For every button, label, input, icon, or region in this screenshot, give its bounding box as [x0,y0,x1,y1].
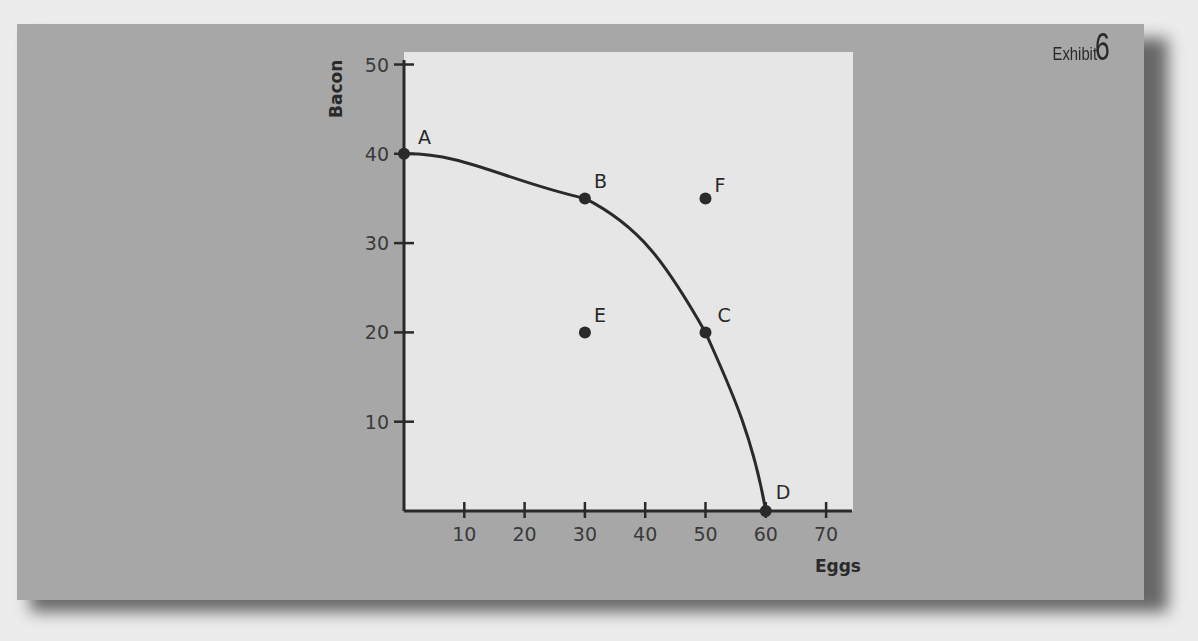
x-axis-title: Eggs [815,556,861,576]
y-tick-label: 50 [365,54,389,76]
point-label-b: B [594,170,607,192]
point-label-e: E [594,304,606,326]
point-label-c: C [718,304,731,326]
x-tick-label: 60 [754,523,778,545]
point-label-d: D [776,481,791,503]
point-c [700,326,712,338]
x-tick-label: 10 [452,523,476,545]
ppf-chart: 102030405060701020304050 ABCDEF Bacon Eg… [0,0,1198,641]
y-tick-label: 20 [365,321,389,343]
y-tick-label: 40 [365,143,389,165]
point-d [760,505,772,517]
point-f [700,192,712,204]
point-a [398,148,410,160]
x-tick-label: 40 [633,523,657,545]
point-label-a: A [418,126,431,148]
x-tick-label: 20 [513,523,537,545]
x-tick-label: 30 [573,523,597,545]
x-tick-label: 50 [693,523,717,545]
y-tick-label: 10 [365,411,389,433]
plot-area [404,52,853,511]
y-tick-label: 30 [365,232,389,254]
y-axis-title: Bacon [326,60,346,118]
point-e [579,326,591,338]
x-tick-label: 70 [814,523,838,545]
point-b [579,192,591,204]
point-label-f: F [715,174,726,196]
